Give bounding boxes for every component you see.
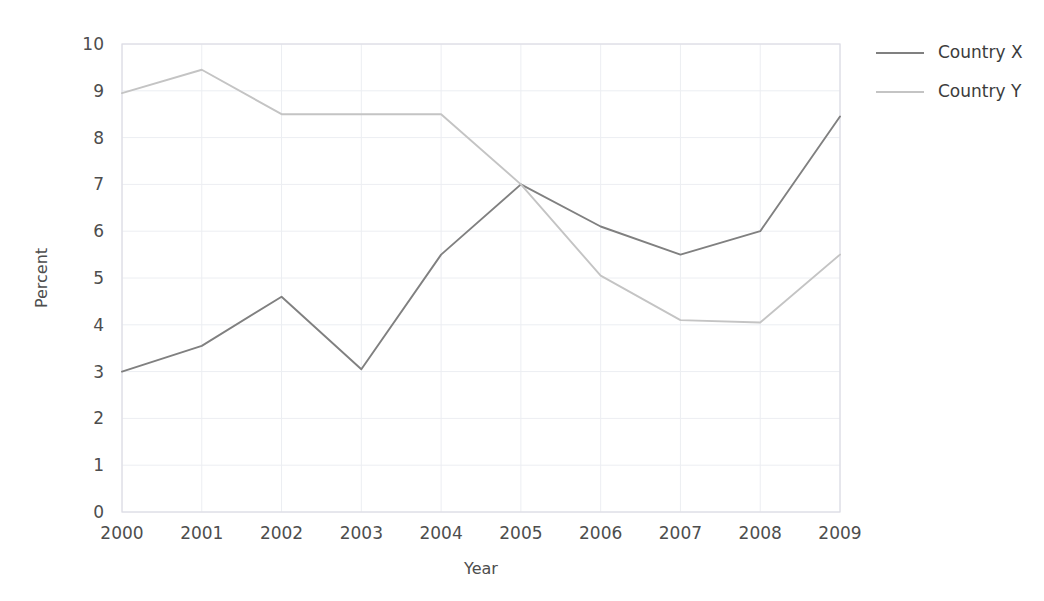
y-tick-label: 0 bbox=[93, 502, 104, 522]
x-tick-label: 2002 bbox=[260, 523, 303, 543]
legend-label: Country Y bbox=[938, 81, 1022, 101]
y-tick-label: 5 bbox=[93, 268, 104, 288]
series-line bbox=[122, 70, 840, 323]
y-gridlines bbox=[122, 44, 840, 512]
x-axis-label: Year bbox=[463, 559, 498, 578]
x-tick-label: 2001 bbox=[180, 523, 223, 543]
x-tick-label: 2009 bbox=[818, 523, 861, 543]
x-tick-label: 2008 bbox=[739, 523, 782, 543]
y-tick-label: 7 bbox=[93, 174, 104, 194]
chart-title bbox=[0, 0, 840, 2]
x-tick-label: 2006 bbox=[579, 523, 622, 543]
y-tick-label: 1 bbox=[93, 455, 104, 475]
y-tick-label: 8 bbox=[93, 128, 104, 148]
y-tick-label: 4 bbox=[93, 315, 104, 335]
y-tick-label: 9 bbox=[93, 81, 104, 101]
y-tick-label: 10 bbox=[82, 34, 104, 54]
x-tick-label: 2004 bbox=[419, 523, 462, 543]
x-tick-label: 2007 bbox=[659, 523, 702, 543]
x-tick-label: 2005 bbox=[499, 523, 542, 543]
legend-label: Country X bbox=[938, 42, 1023, 62]
y-tick-label: 6 bbox=[93, 221, 104, 241]
y-tick-label: 2 bbox=[93, 408, 104, 428]
x-axis-tick-labels: 2000200120022003200420052006200720082009 bbox=[100, 523, 861, 543]
x-tick-label: 2003 bbox=[340, 523, 383, 543]
series-line bbox=[122, 117, 840, 372]
chart-canvas: 012345678910 200020012002200320042005200… bbox=[0, 0, 1044, 601]
data-series-group bbox=[122, 70, 840, 372]
y-tick-label: 3 bbox=[93, 362, 104, 382]
chart-legend: Country XCountry Y bbox=[876, 42, 1023, 101]
line-chart: 012345678910 200020012002200320042005200… bbox=[0, 0, 1044, 601]
x-tick-label: 2000 bbox=[100, 523, 143, 543]
y-axis-label: Percent bbox=[32, 248, 51, 308]
y-axis-tick-labels: 012345678910 bbox=[82, 34, 104, 522]
